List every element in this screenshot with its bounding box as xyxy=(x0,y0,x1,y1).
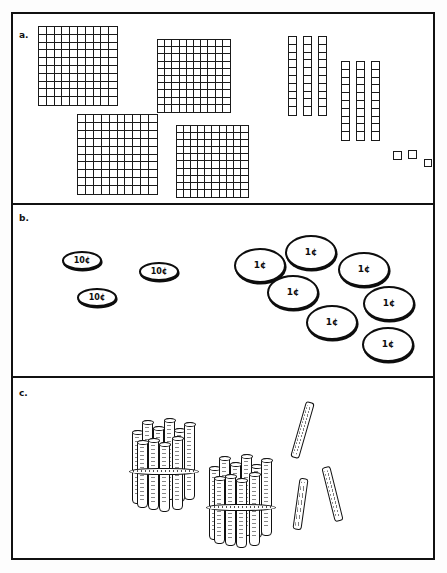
flat-unit-cell xyxy=(118,123,126,131)
flat-unit-cell xyxy=(62,50,70,58)
flat-unit-cell xyxy=(187,90,194,97)
flat-unit-cell xyxy=(172,83,179,90)
flat-unit-cell xyxy=(180,90,187,97)
penny-label: 1¢ xyxy=(305,248,318,257)
flat-unit-cell xyxy=(39,66,47,74)
flat-unit-cell xyxy=(62,35,70,43)
penny-coin: 1¢ xyxy=(362,327,414,362)
flat-unit-cell xyxy=(184,169,191,176)
flat-unit-cell xyxy=(86,82,94,90)
flat-unit-cell xyxy=(94,123,102,131)
rod-unit-segment xyxy=(289,45,296,53)
flat-unit-cell xyxy=(205,133,212,140)
flat-unit-cell xyxy=(241,161,248,168)
flat-unit-cell xyxy=(212,169,219,176)
flat-unit-cell xyxy=(208,98,215,105)
flat-unit-cell xyxy=(212,154,219,161)
flat-unit-cell xyxy=(205,169,212,176)
rod-unit-segment xyxy=(372,132,379,140)
flat-unit-cell xyxy=(141,139,149,147)
flat-unit-cell xyxy=(212,161,219,168)
penny-label: 1¢ xyxy=(382,340,395,349)
flat-unit-cell xyxy=(216,54,223,61)
rod-unit-segment xyxy=(304,107,311,115)
flat-unit-cell xyxy=(191,169,198,176)
flat-unit-cell xyxy=(194,40,201,47)
rod-unit-segment xyxy=(342,132,349,140)
flat-unit-cell xyxy=(141,170,149,178)
flat-unit-cell xyxy=(201,76,208,83)
flat-unit-cell xyxy=(194,83,201,90)
flat-unit-cell xyxy=(177,154,184,161)
rod-unit-segment xyxy=(304,37,311,45)
panel-label-c: c. xyxy=(19,388,28,398)
flat-unit-cell xyxy=(39,43,47,51)
flat-unit-cell xyxy=(184,176,191,183)
flat-unit-cell xyxy=(110,186,118,194)
flat-unit-cell xyxy=(220,154,227,161)
stick-bundle-of-ten xyxy=(205,452,277,548)
flat-unit-cell xyxy=(223,105,230,112)
flat-unit-cell xyxy=(223,69,230,76)
flat-unit-cell xyxy=(223,90,230,97)
flat-unit-cell xyxy=(109,89,117,97)
flat-unit-cell xyxy=(94,66,102,74)
flat-unit-cell xyxy=(216,90,223,97)
flat-unit-cell xyxy=(194,54,201,61)
flat-unit-cell xyxy=(94,82,102,90)
flat-unit-cell xyxy=(158,105,165,112)
flat-unit-cell xyxy=(55,89,63,97)
flat-unit-cell xyxy=(191,147,198,154)
flat-unit-cell xyxy=(177,126,184,133)
rod-unit-segment xyxy=(357,117,364,125)
dime-label: 10¢ xyxy=(89,294,106,302)
flat-unit-cell xyxy=(177,140,184,147)
flat-unit-cell xyxy=(212,183,219,190)
flat-unit-cell xyxy=(94,155,102,163)
flat-unit-cell xyxy=(184,161,191,168)
flat-unit-cell xyxy=(101,82,109,90)
rod-unit-segment xyxy=(342,62,349,70)
flat-unit-cell xyxy=(86,155,94,163)
flat-unit-cell xyxy=(184,133,191,140)
flat-unit-cell xyxy=(94,27,102,35)
rod-unit-segment xyxy=(319,37,326,45)
flat-unit-cell xyxy=(86,123,94,131)
flat-unit-cell xyxy=(205,140,212,147)
flat-unit-cell xyxy=(101,58,109,66)
flat-unit-cell xyxy=(78,170,86,178)
rod-unit-segment xyxy=(289,37,296,45)
flat-unit-cell xyxy=(201,69,208,76)
bundle-band xyxy=(129,468,199,475)
worksheet-figure: a. b. 10¢10¢10¢1¢1¢1¢1¢1¢1¢1¢ c. xyxy=(0,0,447,573)
flat-unit-cell xyxy=(141,162,149,170)
flat-unit-cell xyxy=(208,69,215,76)
flat-unit-cell xyxy=(109,66,117,74)
flat-unit-cell xyxy=(109,43,117,51)
flat-unit-cell xyxy=(94,186,102,194)
flat-unit-cell xyxy=(187,83,194,90)
flat-unit-cell xyxy=(220,190,227,197)
flat-unit-cell xyxy=(86,58,94,66)
penny-label: 1¢ xyxy=(326,318,339,327)
rod-unit-segment xyxy=(289,60,296,68)
flat-unit-cell xyxy=(101,66,109,74)
flat-unit-cell xyxy=(102,186,110,194)
flat-unit-cell xyxy=(191,190,198,197)
flat-unit-cell xyxy=(149,178,157,186)
flat-unit-cell xyxy=(86,139,94,147)
flat-unit-cell xyxy=(101,50,109,58)
flat-unit-cell xyxy=(158,90,165,97)
dime-coin: 10¢ xyxy=(62,251,102,270)
flat-unit-cell xyxy=(47,82,55,90)
flat-unit-cell xyxy=(110,178,118,186)
flat-unit-cell xyxy=(110,170,118,178)
flat-unit-cell xyxy=(102,131,110,139)
flat-unit-cell xyxy=(184,154,191,161)
flat-unit-cell xyxy=(180,62,187,69)
flat-unit-cell xyxy=(208,83,215,90)
flat-unit-cell xyxy=(172,47,179,54)
flat-unit-cell xyxy=(102,162,110,170)
flat-unit-cell xyxy=(47,58,55,66)
tens-rod xyxy=(303,36,312,116)
